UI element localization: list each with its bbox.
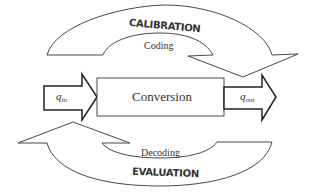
input-subscript: in	[62, 96, 67, 104]
input-label: qin	[56, 90, 67, 104]
conversion-label: Conversion	[132, 89, 192, 105]
input-arrow	[44, 74, 97, 120]
output-subscript: out	[246, 96, 255, 104]
evaluation-title: EVALUATION	[132, 166, 199, 179]
coding-label: Coding	[144, 40, 173, 51]
output-label: qout	[240, 90, 254, 104]
decoding-label: Decoding	[141, 147, 180, 158]
